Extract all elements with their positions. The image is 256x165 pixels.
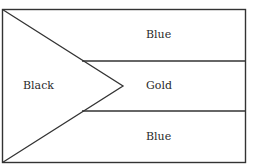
top-blue-band-label: Blue <box>146 29 171 41</box>
middle-gold-band-label: Gold <box>146 80 172 92</box>
black-triangle-label: Black <box>23 80 54 92</box>
bottom-blue-band-label: Blue <box>146 131 171 143</box>
